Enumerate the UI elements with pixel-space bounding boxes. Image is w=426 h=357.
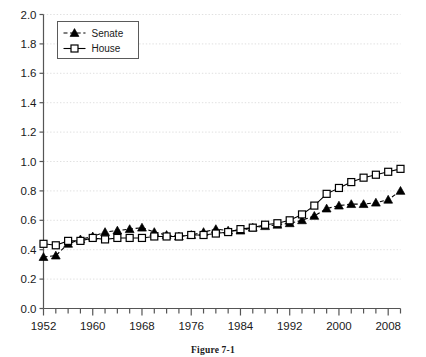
datapoint-house-1992 (286, 217, 293, 224)
datapoint-house-1952 (40, 240, 47, 247)
y-tick-label-2.0: 2.0 (21, 9, 37, 21)
datapoint-house-2006 (372, 171, 379, 178)
datapoint-house-1958 (77, 237, 84, 244)
y-tick-label-1.6: 1.6 (21, 67, 37, 79)
datapoint-senate-1962 (101, 228, 110, 236)
datapoint-house-2000 (335, 184, 342, 191)
datapoint-house-1966 (126, 234, 133, 241)
datapoint-house-1980 (212, 230, 219, 237)
figure-container: 0.00.20.40.60.81.01.21.41.61.82.01952196… (0, 0, 426, 357)
y-tick-label-1.2: 1.2 (21, 126, 37, 138)
datapoint-house-1964 (114, 234, 121, 241)
y-tick-label-0.6: 0.6 (21, 214, 37, 226)
datapoint-house-1982 (225, 229, 232, 236)
y-tick-label-0.8: 0.8 (21, 185, 37, 197)
x-tick-label-1968: 1968 (129, 320, 155, 332)
legend-marker-house (71, 45, 78, 52)
datapoint-house-1968 (138, 234, 145, 241)
datapoint-house-1956 (65, 237, 72, 244)
x-tick-label-1976: 1976 (178, 320, 204, 332)
x-tick-label-2000: 2000 (326, 320, 352, 332)
datapoint-house-2004 (360, 174, 367, 181)
datapoint-house-1962 (102, 236, 109, 243)
datapoint-house-1976 (188, 232, 195, 239)
datapoint-house-1960 (89, 234, 96, 241)
line-chart: 0.00.20.40.60.81.01.21.41.61.82.01952196… (0, 0, 426, 357)
datapoint-house-1970 (151, 233, 158, 240)
datapoint-house-1978 (200, 232, 207, 239)
x-tick-label-1952: 1952 (31, 320, 57, 332)
legend-label-senate: Senate (92, 28, 124, 39)
y-tick-label-1.0: 1.0 (21, 156, 37, 168)
datapoint-house-1984 (237, 226, 244, 233)
datapoint-house-1994 (299, 211, 306, 218)
datapoint-senate-2010 (396, 187, 405, 195)
datapoint-house-1988 (262, 221, 269, 228)
datapoint-house-1974 (175, 233, 182, 240)
datapoint-house-1996 (311, 202, 318, 209)
datapoint-house-1954 (52, 242, 59, 249)
figure-caption: Figure 7-1 (0, 345, 426, 355)
x-tick-label-1992: 1992 (277, 320, 303, 332)
datapoint-senate-1964 (113, 226, 122, 234)
x-tick-label-2008: 2008 (375, 320, 401, 332)
datapoint-house-1986 (249, 224, 256, 231)
series-line-senate (44, 191, 401, 257)
datapoint-senate-1968 (138, 223, 147, 231)
datapoint-senate-1996 (310, 211, 319, 219)
datapoint-house-2008 (385, 168, 392, 175)
datapoint-senate-2006 (371, 198, 380, 206)
y-tick-label-0.0: 0.0 (21, 303, 37, 315)
y-tick-label-1.8: 1.8 (21, 38, 37, 50)
legend-label-house: House (92, 43, 121, 54)
y-tick-label-0.4: 0.4 (21, 244, 38, 256)
datapoint-house-1990 (274, 220, 281, 227)
x-tick-label-1984: 1984 (228, 320, 254, 332)
datapoint-house-2010 (397, 165, 404, 172)
datapoint-senate-2008 (384, 195, 393, 203)
y-tick-label-1.4: 1.4 (21, 97, 38, 109)
datapoint-house-1998 (323, 190, 330, 197)
datapoint-house-2002 (348, 179, 355, 186)
x-tick-label-1960: 1960 (80, 320, 106, 332)
datapoint-house-1972 (163, 233, 170, 240)
y-tick-label-0.2: 0.2 (21, 273, 37, 285)
